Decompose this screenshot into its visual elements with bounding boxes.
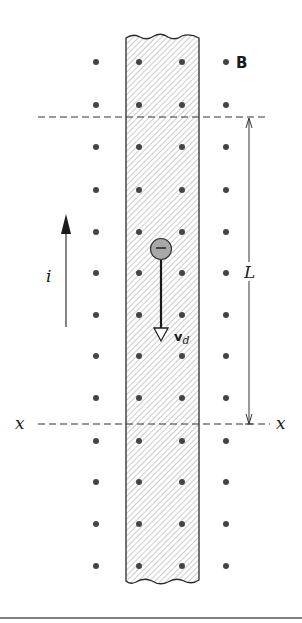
field-dot [179, 229, 185, 235]
field-dot [223, 229, 229, 235]
field-dot [223, 479, 229, 485]
field-dot [136, 144, 142, 150]
field-dot [179, 187, 185, 193]
field-dot [136, 438, 142, 444]
diagram-canvas: L i B x x vd [0, 0, 302, 623]
current-arrow [61, 214, 71, 327]
field-dot [136, 102, 142, 108]
field-dot [223, 353, 229, 359]
field-dot [223, 187, 229, 193]
field-dot [93, 187, 99, 193]
field-dot [136, 312, 142, 318]
field-dot [93, 395, 99, 401]
field-dot [93, 563, 99, 569]
field-dot [223, 438, 229, 444]
field-dot [93, 521, 99, 527]
field-dot [179, 563, 185, 569]
field-dot [136, 187, 142, 193]
field-dot [93, 270, 99, 276]
field-dot [179, 479, 185, 485]
section-label-right: x [276, 413, 286, 433]
field-dot [179, 438, 185, 444]
field-dot [136, 521, 142, 527]
field-dot [136, 353, 142, 359]
field-dot [136, 563, 142, 569]
field-dot [223, 395, 229, 401]
field-dot [136, 479, 142, 485]
field-dot [93, 144, 99, 150]
field-dot [223, 102, 229, 108]
field-dot [136, 59, 142, 65]
magnetic-field-label: B [236, 54, 247, 72]
field-dot [223, 144, 229, 150]
field-dot [93, 102, 99, 108]
field-dot [93, 312, 99, 318]
field-dot [179, 59, 185, 65]
current-label: i [46, 266, 51, 286]
field-dot [179, 102, 185, 108]
field-dot [223, 521, 229, 527]
field-dot [223, 563, 229, 569]
field-dot [136, 395, 142, 401]
electron-icon [151, 239, 172, 260]
field-dot [223, 270, 229, 276]
field-dot [179, 270, 185, 276]
field-dot [93, 438, 99, 444]
field-dot [93, 353, 99, 359]
section-label-left: x [15, 413, 25, 433]
field-dot [136, 270, 142, 276]
field-dot [179, 144, 185, 150]
field-dot [136, 229, 142, 235]
field-dot [93, 229, 99, 235]
field-dot [93, 479, 99, 485]
field-dot [179, 353, 185, 359]
field-dot [223, 312, 229, 318]
length-label: L [243, 262, 255, 282]
field-dot [179, 521, 185, 527]
field-dot [179, 312, 185, 318]
field-dot [93, 59, 99, 65]
field-dot [179, 395, 185, 401]
field-dot [223, 59, 229, 65]
